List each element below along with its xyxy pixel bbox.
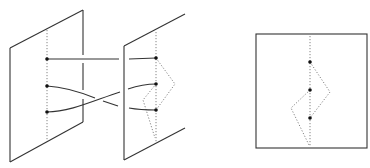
projection-square: [256, 34, 367, 148]
right-plane-bottom-edge: [124, 128, 185, 160]
projection-curve-lower: [291, 90, 310, 145]
projection-frame: [256, 34, 367, 148]
strands: [47, 58, 156, 112]
point-left-1: [45, 57, 49, 61]
left-plane-top-edge: [10, 10, 83, 48]
projection-point-1: [308, 60, 312, 64]
right-plane-top-edge: [124, 14, 185, 46]
right-plane-projection-lower: [143, 84, 156, 138]
point-right-1: [154, 56, 158, 60]
point-left-2: [45, 84, 49, 88]
projection-curve-upper: [310, 62, 330, 118]
point-left-3: [45, 110, 49, 114]
left-plane-bottom-edge: [10, 122, 83, 162]
projection-point-3: [308, 116, 312, 120]
diagram-canvas: [0, 0, 370, 168]
projection-point-2: [308, 88, 312, 92]
point-right-2: [154, 82, 158, 86]
right-plane-projection-upper: [156, 58, 175, 110]
braid-diagram: [0, 0, 370, 168]
strand-middle-to-bottom: [47, 86, 95, 98]
point-right-3: [154, 108, 158, 112]
